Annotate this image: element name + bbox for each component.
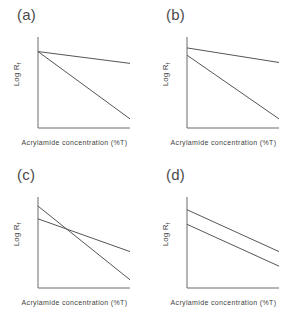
- panel-a-axes: [38, 37, 130, 128]
- panel-c: (c) Log Rf Acrylamide concentration (%T): [0, 160, 149, 320]
- panel-b-shallow-slope-line: [187, 48, 279, 63]
- panel-c-shallow-slope-line: [38, 219, 130, 252]
- panel-d: (d) Log Rf Acrylamide concentration (%T): [149, 160, 298, 320]
- panel-a-y-axis-label: Log Rf: [12, 47, 21, 103]
- panel-d-x-axis-label: Acrylamide concentration (%T): [149, 299, 298, 306]
- panel-d-axes: [187, 197, 279, 288]
- panel-a: (a) Log Rf Acrylamide concentration (%T): [0, 0, 149, 160]
- panel-b-x-axis-label: Acrylamide concentration (%T): [149, 139, 298, 146]
- panel-b-axes: [187, 37, 279, 128]
- panel-c-x-axis-label: Acrylamide concentration (%T): [0, 299, 149, 306]
- panel-c-steep-slope-line: [38, 206, 130, 280]
- panel-b: (b) Log Rf Acrylamide concentration (%T): [149, 0, 298, 160]
- panel-b-plot: [149, 0, 298, 160]
- panel-d-y-axis-label: Log Rf: [161, 207, 170, 263]
- panel-a-plot: [0, 0, 149, 160]
- panel-c-y-axis-label: Log Rf: [12, 207, 21, 263]
- panel-c-plot: [0, 160, 149, 320]
- ferguson-plot-figure: (a) Log Rf Acrylamide concentration (%T)…: [0, 0, 299, 321]
- panel-b-steep-slope-line: [187, 55, 279, 119]
- panel-d-plot: [149, 160, 298, 320]
- panel-b-y-axis-label: Log Rf: [161, 47, 170, 103]
- panel-a-x-axis-label: Acrylamide concentration (%T): [0, 139, 149, 146]
